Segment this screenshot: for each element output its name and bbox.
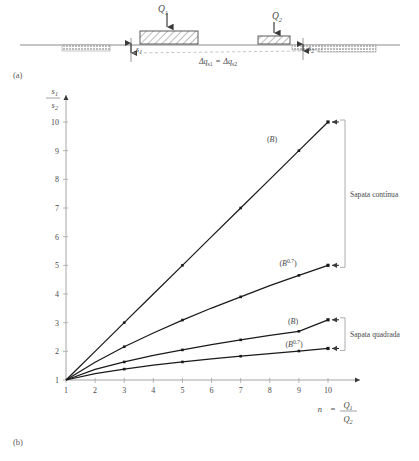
svg-text:1: 1 <box>55 376 59 385</box>
sapata-continua-caption: Sapata contínua <box>350 190 399 199</box>
panel-label-a: (a) <box>13 70 22 80</box>
stress-influence-line <box>133 51 302 53</box>
chart-group-brackets: Sapata contínuaSapata quadrada <box>340 120 401 350</box>
panel-label-b: (b) <box>13 437 23 447</box>
curve-label-1: (B) <box>267 135 278 144</box>
x-axis-label-equals: = <box>331 404 336 414</box>
chart-curve-endpoint-arrows <box>326 120 339 350</box>
figure-container: Q1 Q2 s1 s2 Δqs1=Δqs2 <box>0 0 419 461</box>
load-label-q1: Q1 <box>158 4 168 16</box>
x-axis-label-denominator: Q2 <box>343 414 352 425</box>
soil-block-right <box>318 45 376 52</box>
sapata-continua-bracket <box>340 120 345 267</box>
svg-text:6: 6 <box>210 386 214 395</box>
svg-text:10: 10 <box>51 118 59 127</box>
svg-text:3: 3 <box>55 319 59 328</box>
chart-panel-b: s1 s2 n = Q1 Q2 12345678910 12345678910 … <box>46 86 401 425</box>
x-axis-label: n = Q1 Q2 <box>318 400 357 425</box>
svg-text:3: 3 <box>122 386 126 395</box>
soil-block-left <box>62 45 110 51</box>
figure-svg: Q1 Q2 s1 s2 Δqs1=Δqs2 <box>0 0 419 461</box>
y-axis-label-numerator: s1 <box>52 86 58 97</box>
svg-text:1: 1 <box>64 386 68 395</box>
sapata-quadrada-bracket <box>340 318 345 351</box>
svg-text:10: 10 <box>324 386 332 395</box>
settlement-label-s1: s1 <box>136 45 142 55</box>
svg-text:2: 2 <box>93 386 97 395</box>
x-axis-label-variable: n <box>318 404 322 414</box>
x-axis-label-numerator: Q1 <box>343 400 352 411</box>
y-axis-label-denominator: s2 <box>52 100 58 111</box>
load-label-q2: Q2 <box>272 11 283 23</box>
svg-text:9: 9 <box>297 386 301 395</box>
svg-text:4: 4 <box>151 386 155 395</box>
svg-text:7: 7 <box>55 204 59 213</box>
sapata-quadrada-caption: Sapata quadrada <box>350 330 401 339</box>
y-axis-label: s1 s2 <box>46 86 60 111</box>
svg-text:7: 7 <box>239 386 243 395</box>
svg-text:2: 2 <box>55 347 59 356</box>
x-axis-ticks: 12345678910 <box>64 378 332 395</box>
curve-label-4: (B0.7) <box>285 339 303 349</box>
svg-text:9: 9 <box>55 147 59 156</box>
svg-text:8: 8 <box>55 175 59 184</box>
footing-square <box>258 36 290 44</box>
stress-equality-label: Δqs1=Δqs2 <box>198 57 237 67</box>
svg-text:6: 6 <box>55 233 59 242</box>
curve-label-3: (B) <box>288 317 299 326</box>
chart-curve-labels: (B)(B0.7)(B)(B0.7) <box>267 135 303 349</box>
svg-text:4: 4 <box>55 290 59 299</box>
svg-text:5: 5 <box>55 261 59 270</box>
diagram-panel-a: Q1 Q2 s1 s2 Δqs1=Δqs2 <box>20 4 400 67</box>
soil-block-mid <box>292 45 322 50</box>
footing-continuous <box>140 31 198 44</box>
y-axis-ticks: 12345678910 <box>51 118 68 385</box>
curve-label-2: (B0.7) <box>279 258 297 268</box>
chart-data-point-markers <box>123 149 300 370</box>
svg-text:5: 5 <box>180 386 184 395</box>
svg-text:8: 8 <box>268 386 272 395</box>
